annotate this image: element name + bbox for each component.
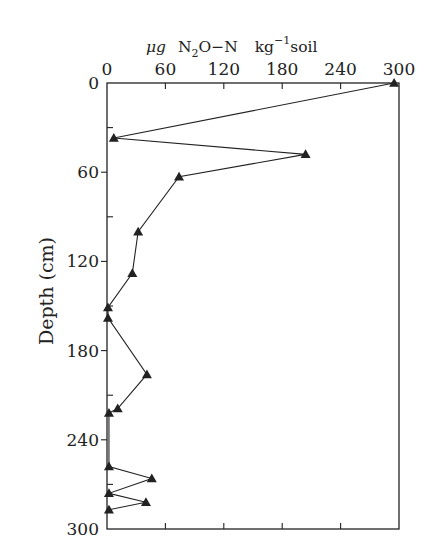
x-title-n: N (178, 38, 192, 56)
triangle-marker-icon (127, 268, 137, 277)
y-tick-label: 120 (67, 251, 99, 271)
x-tick-label: 180 (266, 59, 298, 79)
x-tick-label: 0 (102, 59, 113, 79)
y-tick-label: 60 (77, 162, 99, 182)
x-tick-label: 300 (383, 59, 415, 79)
x-title-o-n: O−N (199, 38, 238, 56)
axis-ticks (101, 83, 341, 529)
triangle-marker-icon (103, 313, 113, 322)
y-axis-title: Depth (cm) (35, 237, 57, 345)
triangle-marker-icon (142, 369, 152, 378)
x-axis-title: μg N2O−N kg−1soil (146, 34, 317, 60)
x-tick-label: 60 (155, 59, 177, 79)
y-tick-label: 240 (67, 430, 99, 450)
x-tick-label: 240 (324, 59, 356, 79)
x-title-soil: soil (290, 38, 317, 56)
tick-labels: 060120180240300060120180240300 (67, 59, 416, 539)
triangle-marker-icon (104, 462, 114, 471)
x-title-mu: μg (146, 38, 166, 56)
triangle-marker-icon (133, 227, 143, 236)
chart-canvas: μg N2O−N kg−1soil Depth (cm) 06012018024… (0, 0, 432, 556)
triangle-marker-icon (103, 302, 113, 311)
data-line (108, 83, 394, 510)
triangle-marker-icon (104, 408, 114, 417)
y-tick-label: 300 (67, 519, 99, 539)
x-title-sup: −1 (274, 34, 290, 47)
x-title-sub: 2 (192, 47, 199, 60)
y-tick-label: 0 (88, 73, 99, 93)
chart: μg N2O−N kg−1soil Depth (cm) 06012018024… (0, 0, 432, 556)
triangle-marker-icon (104, 488, 114, 497)
x-title-kg: kg (255, 38, 274, 56)
y-tick-label: 180 (67, 341, 99, 361)
x-tick-label: 120 (208, 59, 240, 79)
data-markers (103, 78, 399, 513)
